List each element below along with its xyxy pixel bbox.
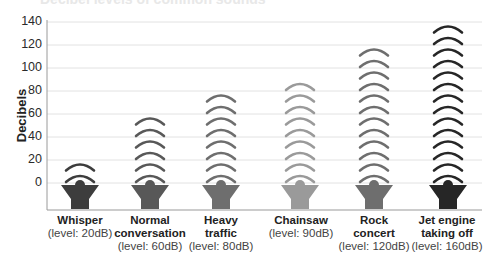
sound-wave-icon <box>434 119 462 125</box>
sound-wave-icon <box>207 96 235 102</box>
sound-wave-icon <box>360 73 388 79</box>
sound-wave-icon <box>434 165 462 171</box>
sound-wave-icon <box>136 130 164 136</box>
sound-wave-icon <box>434 73 462 79</box>
sound-wave-icon <box>434 38 462 44</box>
sound-wave-icon <box>286 165 314 171</box>
sound-wave-icon <box>66 165 94 171</box>
sound-wave-icon <box>434 107 462 113</box>
sound-wave-icon <box>207 107 235 113</box>
sound-wave-icon <box>434 142 462 148</box>
sound-wave-icon <box>360 107 388 113</box>
sound-wave-icon <box>207 130 235 136</box>
sound-wave-icon <box>360 50 388 56</box>
sound-wave-icon <box>434 84 462 90</box>
sound-wave-icon <box>207 153 235 159</box>
speaker-icon <box>61 185 99 209</box>
sound-wave-icon <box>207 142 235 148</box>
sound-wave-icon <box>286 130 314 136</box>
sound-wave-icon <box>136 119 164 125</box>
y-tick-20: 20 <box>0 152 42 166</box>
sound-wave-icon <box>434 130 462 136</box>
sound-wave-icon <box>434 50 462 56</box>
speaker-dome-icon <box>75 180 85 185</box>
speaker-icon <box>355 185 393 209</box>
sound-wave-icon <box>360 96 388 102</box>
y-tick-40: 40 <box>0 129 42 143</box>
sound-wave-icon <box>360 153 388 159</box>
sound-wave-icon <box>434 27 462 33</box>
sound-wave-icon <box>136 142 164 148</box>
sound-wave-icon <box>360 165 388 171</box>
sound-wave-icon <box>136 153 164 159</box>
speaker-dome-icon <box>216 180 226 185</box>
sound-wave-icon <box>360 119 388 125</box>
speaker-dome-icon <box>295 180 305 185</box>
sound-wave-icon <box>286 119 314 125</box>
speaker-dome-icon <box>145 180 155 185</box>
category-label-jet-engine: Jet engine taking off (level: 160dB) <box>402 214 483 253</box>
category-label-heavy-traffic: Heavy traffic (level: 80dB) <box>176 214 266 253</box>
sound-wave-icon <box>136 165 164 171</box>
sound-wave-icon <box>360 142 388 148</box>
speaker-icon <box>131 185 169 209</box>
y-tick-80: 80 <box>0 83 42 97</box>
sound-wave-icon <box>286 96 314 102</box>
speaker-dome-icon <box>369 180 379 185</box>
speaker-dome-icon <box>443 180 453 185</box>
speaker-icon <box>281 185 319 209</box>
sound-wave-icon <box>207 165 235 171</box>
sound-wave-icon <box>207 119 235 125</box>
y-tick-60: 60 <box>0 106 42 120</box>
y-tick-0: 0 <box>0 175 42 189</box>
sound-wave-icon <box>434 61 462 67</box>
sound-wave-icon <box>286 84 314 90</box>
sound-wave-icon <box>360 130 388 136</box>
sound-wave-icon <box>360 61 388 67</box>
speaker-icon <box>202 185 240 209</box>
sound-wave-icon <box>286 142 314 148</box>
y-tick-100: 100 <box>0 60 42 74</box>
sound-wave-icon <box>286 153 314 159</box>
sound-wave-icon <box>434 153 462 159</box>
y-tick-140: 140 <box>0 14 42 28</box>
sound-wave-icon <box>434 96 462 102</box>
sound-wave-icon <box>360 84 388 90</box>
decibel-chart: Decibel levels of common sounds Decibels… <box>0 0 483 260</box>
speaker-icon <box>429 185 467 209</box>
sound-wave-icon <box>286 107 314 113</box>
y-tick-120: 120 <box>0 37 42 51</box>
